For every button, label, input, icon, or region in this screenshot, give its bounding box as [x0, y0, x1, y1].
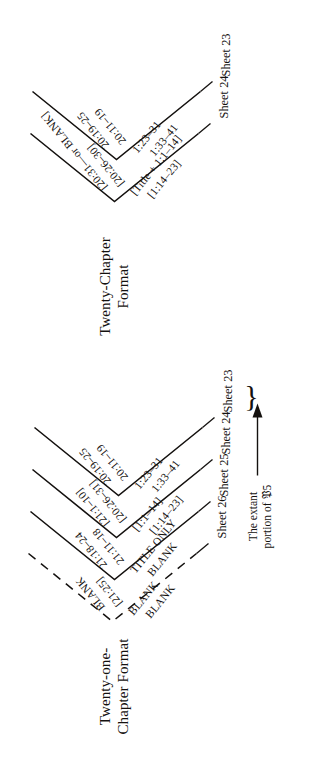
sheet-tick-26: [196, 543, 208, 553]
sheet-tick-20-23: [200, 81, 212, 91]
sheet-name-20-24: Sheet 24: [216, 75, 231, 118]
sheet-name-26: Sheet 26: [214, 495, 229, 538]
figure-canvas: Twenty-one- Chapter Format BLANK [21:25]…: [0, 0, 319, 781]
sheet-tick-23: [202, 417, 214, 427]
extant-arrow-icon: [246, 395, 268, 481]
sheet-tick-20-24: [198, 123, 210, 133]
sheet-name-24: Sheet 24: [218, 411, 233, 454]
sheet-name-20-23: Sheet 23: [218, 33, 233, 76]
sheet-name-25: Sheet 25: [216, 453, 231, 496]
sheet-fold-lines-20: [0, 0, 319, 391]
sheet-tick-24: [200, 459, 212, 469]
extant-portion-annotation: The extant portion of 𝔓5: [246, 473, 274, 559]
panel-twenty-chapter: Twenty-Chapter Format [20:31—or BLANK] […: [0, 0, 319, 391]
sheet-tick-25: [198, 501, 210, 511]
panel-twenty-one-chapter: Twenty-one- Chapter Format BLANK [21:25]…: [0, 391, 319, 781]
